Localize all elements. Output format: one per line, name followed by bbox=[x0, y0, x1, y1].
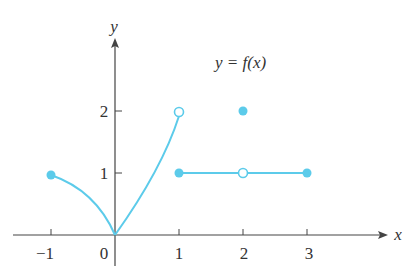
x-tick-label-3: 3 bbox=[305, 244, 314, 263]
closed-point-2-2 bbox=[239, 107, 248, 116]
x-axis-label: x bbox=[393, 225, 402, 244]
closed-point-neg1-1 bbox=[47, 171, 56, 180]
y-tick-label-2: 2 bbox=[100, 102, 109, 121]
middle-branch-curve bbox=[115, 116, 179, 235]
open-point-1-2 bbox=[175, 108, 184, 117]
y-axis-label: y bbox=[108, 17, 118, 36]
x-tick-label-2: 2 bbox=[240, 244, 249, 263]
left-branch-curve bbox=[51, 175, 115, 235]
x-tick-label-0: 0 bbox=[100, 244, 109, 263]
closed-point-1-1 bbox=[175, 169, 184, 178]
y-tick-label-1: 1 bbox=[100, 164, 109, 183]
open-point-2-1 bbox=[239, 169, 248, 178]
function-graph: −1 0 1 2 3 1 2 y x y = f(x) bbox=[0, 0, 404, 271]
closed-point-3-1 bbox=[303, 169, 312, 178]
x-tick-label-neg1: −1 bbox=[36, 244, 54, 263]
x-tick-label-1: 1 bbox=[175, 244, 184, 263]
function-label: y = f(x) bbox=[213, 53, 266, 72]
